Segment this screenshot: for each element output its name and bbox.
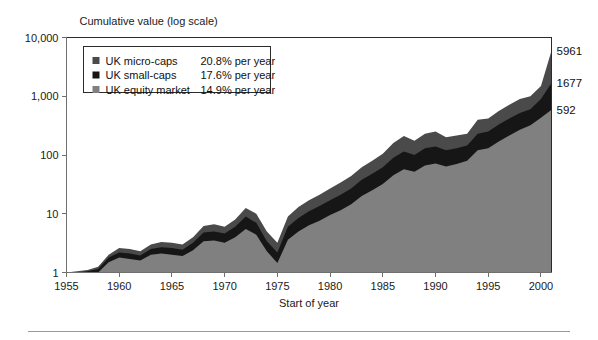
y-tick-label: 1,000 xyxy=(31,90,59,102)
x-tick-label: 1965 xyxy=(160,280,184,292)
x-tick-label: 1990 xyxy=(423,280,447,292)
x-tick-label: 2000 xyxy=(529,280,553,292)
legend-label-0: UK micro-caps xyxy=(106,55,179,67)
end-label-uk-small-caps: 1677 xyxy=(557,77,583,89)
legend-swatch-micro-caps xyxy=(93,57,100,64)
y-tick-label: 10,000 xyxy=(25,32,59,44)
y-tick-label: 10 xyxy=(46,208,58,220)
legend-label-1: UK small-caps xyxy=(106,69,177,81)
x-tick-label: 1970 xyxy=(212,280,236,292)
chart-figure: 1101001,00010,00019551960196519701975198… xyxy=(0,0,598,340)
legend-rate-0: 20.8% per year xyxy=(201,55,276,67)
x-tick-label: 1985 xyxy=(371,280,395,292)
x-axis-title: Start of year xyxy=(279,297,339,309)
legend-swatch-equity-market xyxy=(93,86,100,93)
x-tick-label: 1960 xyxy=(107,280,131,292)
y-axis-title: Cumulative value (log scale) xyxy=(80,15,218,27)
end-label-uk-micro-caps: 5961 xyxy=(557,45,583,57)
chart-legend: UK micro-caps20.8% per yearUK small-caps… xyxy=(84,47,276,96)
legend-rate-2: 14.9% per year xyxy=(201,84,276,96)
cumulative-value-area-chart: 1101001,00010,00019551960196519701975198… xyxy=(0,0,598,340)
x-tick-label: 1980 xyxy=(318,280,342,292)
legend-swatch-small-caps xyxy=(93,72,100,79)
legend-label-2: UK equity market xyxy=(106,84,190,96)
y-tick-label: 1 xyxy=(52,267,58,279)
x-tick-label: 1955 xyxy=(54,280,78,292)
x-tick-label: 1995 xyxy=(476,280,500,292)
series-end-labels: 59611677592 xyxy=(557,45,583,116)
x-tick-label: 1975 xyxy=(265,280,289,292)
legend-rate-1: 17.6% per year xyxy=(201,69,276,81)
end-label-uk-equity-market: 592 xyxy=(557,104,576,116)
y-tick-label: 100 xyxy=(40,149,58,161)
